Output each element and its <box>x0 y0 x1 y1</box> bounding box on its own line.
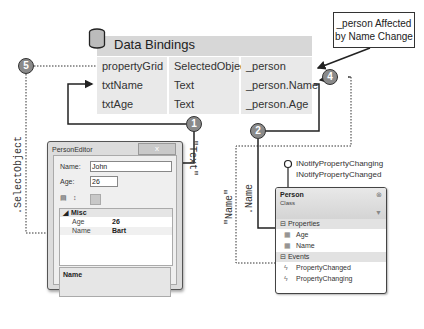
step-badge-5: 5 <box>18 58 34 74</box>
binding-property-cell: Text <box>169 76 239 95</box>
callout-line-1: _person Affected <box>334 17 414 30</box>
binding-path-cell: _person <box>241 57 312 76</box>
age-textbox[interactable]: 26 <box>90 176 118 187</box>
binding-property-cell: Text <box>169 95 239 114</box>
minus-icon: ⊟ <box>280 220 288 227</box>
name-textbox[interactable]: John <box>90 161 172 172</box>
alphabetical-icon[interactable]: ↕ <box>73 194 83 203</box>
class-kind: Class <box>280 200 295 206</box>
window-title: PersonEditor <box>52 146 92 153</box>
minus-icon: ⊟ <box>280 253 288 260</box>
person-class-diagram: Person Class ⊗ ▼ ⊟ Properties ▦Age ▦Name… <box>275 187 387 294</box>
dot-name-label: .Name <box>244 184 255 214</box>
callout-box: _person Affected by Name Change <box>333 12 415 48</box>
person-editor-window: PersonEditor x Name: John Age: 26 ▤ ↕ ◢M… <box>47 141 183 290</box>
property-pages-icon[interactable] <box>90 194 101 205</box>
name-quoted-label: "Name" <box>224 189 235 225</box>
select-object-label: .SelectObject <box>13 136 24 214</box>
filter-icon[interactable]: ▼ <box>375 209 382 216</box>
text-label: "Text" <box>187 140 198 176</box>
binding-path-cell: _person.Name <box>241 76 312 95</box>
categorized-icon[interactable]: ▤ <box>60 194 70 203</box>
event-icon: ϟ <box>284 274 296 284</box>
description-panel: Name <box>59 267 171 297</box>
collapse-icon: ◢ <box>60 209 71 216</box>
interface-label: INotifyPropertyChanged <box>296 170 381 180</box>
binding-control-cell: txtAge <box>97 95 167 114</box>
property-age[interactable]: ▦Age <box>284 230 308 240</box>
callout-line-2: by Name Change <box>334 30 414 43</box>
database-icon <box>88 28 106 50</box>
grid-row[interactable]: Name Bart <box>60 227 172 235</box>
event-property-changed[interactable]: ϟPropertyChanged <box>284 263 351 273</box>
section-events[interactable]: ⊟ Events <box>276 252 386 262</box>
property-icon: ▦ <box>284 241 296 251</box>
window-client-area: Name: John Age: 26 ▤ ↕ ◢Misc Age 26 Name… <box>53 155 177 285</box>
data-bindings-title: Data Bindings <box>114 37 195 52</box>
close-button[interactable]: x <box>138 143 176 155</box>
binding-property-cell: SelectedObject <box>169 57 239 76</box>
grid-category[interactable]: ◢Misc <box>60 209 172 217</box>
section-properties[interactable]: ⊟ Properties <box>276 219 386 229</box>
grid-row[interactable]: Age 26 <box>60 218 172 226</box>
binding-control-cell: txtName <box>97 76 167 95</box>
age-label: Age: <box>60 178 74 185</box>
property-name[interactable]: ▦Name <box>284 241 315 251</box>
name-label: Name: <box>60 163 81 170</box>
property-icon: ▦ <box>284 230 296 240</box>
class-header: Person Class ⊗ ▼ <box>276 188 386 219</box>
interface-label: INotifyPropertyChanging <box>296 159 383 169</box>
event-property-changing[interactable]: ϟPropertyChanging <box>284 274 352 284</box>
step-badge-1: 1 <box>186 116 202 132</box>
class-name: Person <box>280 191 304 198</box>
step-badge-2: 2 <box>250 123 266 139</box>
collapse-icon[interactable]: ⊗ <box>376 191 382 199</box>
step-badge-4: 4 <box>322 69 338 85</box>
event-icon: ϟ <box>284 263 296 273</box>
property-grid[interactable]: ◢Misc Age 26 Name Bart <box>59 208 173 266</box>
binding-control-cell: propertyGrid <box>97 57 167 76</box>
binding-path-cell: _person.Age <box>241 95 312 114</box>
